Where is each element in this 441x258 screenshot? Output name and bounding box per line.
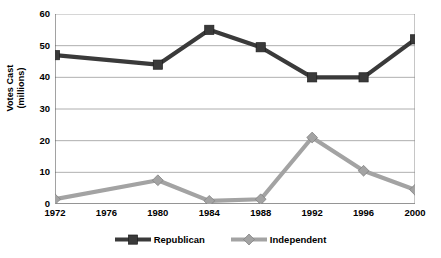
data-point-marker	[152, 175, 163, 186]
x-tick-label: 1992	[289, 207, 335, 218]
series-layer	[55, 25, 415, 204]
data-point-marker	[256, 43, 265, 52]
x-tick-label: 1988	[238, 207, 284, 218]
y-tick-label: 50	[28, 41, 50, 51]
data-point-marker	[205, 25, 214, 34]
x-tick-label: 1980	[135, 207, 181, 218]
legend-swatch-diamond-icon	[231, 234, 267, 245]
y-tick-label: 30	[28, 104, 50, 114]
gridlines	[55, 14, 415, 204]
legend-marker	[243, 234, 254, 245]
series-independent	[55, 132, 415, 204]
y-tick-label: 20	[28, 136, 50, 146]
data-point-marker	[308, 73, 317, 82]
data-point-marker	[359, 73, 368, 82]
legend-entry-republican[interactable]: Republican	[115, 234, 205, 245]
legend-label: Independent	[270, 234, 326, 245]
chart-legend: RepublicanIndependent	[0, 234, 441, 245]
line-chart: Votes Cast (millions) 0102030405060 1972…	[0, 0, 441, 258]
legend-marker	[128, 235, 137, 244]
y-tick-label: 40	[28, 72, 50, 82]
plot-svg	[55, 14, 415, 204]
data-point-marker	[153, 60, 162, 69]
legend-entry-independent[interactable]: Independent	[231, 234, 326, 245]
data-point-marker	[410, 35, 415, 44]
data-point-marker	[55, 51, 60, 60]
y-tick-label: 60	[28, 9, 50, 19]
x-axis-tick-labels: 19721976198019841988199219962000	[55, 207, 415, 221]
data-point-marker	[204, 195, 215, 204]
y-tick-label: 10	[28, 167, 50, 177]
series-republican	[55, 25, 415, 82]
x-tick-label: 1996	[341, 207, 387, 218]
y-axis-title-line1: Votes Cast	[5, 65, 16, 112]
x-tick-label: 1972	[32, 207, 78, 218]
x-tick-label: 1984	[186, 207, 232, 218]
plot-area	[55, 14, 415, 204]
y-axis-tick-labels: 0102030405060	[26, 14, 50, 204]
x-tick-label: 1976	[83, 207, 129, 218]
legend-swatch-square-icon	[115, 234, 151, 245]
series-line	[55, 30, 415, 77]
data-point-marker	[55, 194, 60, 204]
x-tick-label: 2000	[392, 207, 438, 218]
legend-label: Republican	[154, 234, 205, 245]
